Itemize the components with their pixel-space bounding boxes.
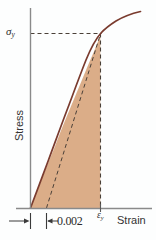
offset-value-label: 0.002 <box>57 215 83 227</box>
epsilon-subscript: y <box>101 214 104 221</box>
x-axis-label: Strain <box>117 215 146 226</box>
origin-dimension-arrowhead <box>24 219 30 224</box>
sigma-subscript: y <box>11 30 14 39</box>
yield-stress-label: σy <box>6 26 15 39</box>
stress-strain-offset-chart: σy εy 0.002 Strain Stress <box>0 0 156 240</box>
offset-dimension-arrowhead <box>47 219 52 224</box>
yield-strain-label: εy <box>97 211 104 222</box>
y-axis-label: Stress <box>14 96 25 156</box>
